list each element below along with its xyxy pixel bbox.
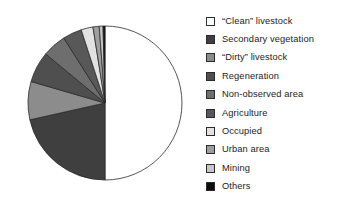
legend-item[interactable]: Regeneration <box>206 67 342 85</box>
legend-item-label: Others <box>222 181 251 192</box>
legend-item[interactable]: Agriculture <box>206 104 342 122</box>
legend-item-label: “Dirty” livestock <box>222 52 287 63</box>
legend-item-label: Secondary vegetation <box>222 34 314 45</box>
pie-svg <box>0 0 195 202</box>
legend-item[interactable]: Secondary vegetation <box>206 30 342 48</box>
legend-item-label: Non-observed area <box>222 89 303 100</box>
pie-slice[interactable] <box>105 26 182 180</box>
legend-item-label: Mining <box>222 163 250 174</box>
legend-swatch-icon <box>206 109 215 118</box>
legend-swatch-icon <box>206 127 215 136</box>
legend-item[interactable]: “Dirty” livestock <box>206 49 342 67</box>
legend-item-label: Occupied <box>222 126 262 137</box>
legend-swatch-icon <box>206 90 215 99</box>
legend-item[interactable]: “Clean” livestock <box>206 12 342 30</box>
legend-item-label: Regeneration <box>222 71 279 82</box>
legend-item[interactable]: Non-observed area <box>206 86 342 104</box>
legend-item[interactable]: Urban area <box>206 141 342 159</box>
legend-swatch-icon <box>206 182 215 191</box>
legend-swatch-icon <box>206 53 215 62</box>
legend-item-label: Urban area <box>222 144 270 155</box>
legend-item[interactable]: Occupied <box>206 122 342 140</box>
pie-slice-group <box>28 26 182 180</box>
chart-legend: “Clean” livestockSecondary vegetation“Di… <box>206 12 342 196</box>
legend-item[interactable]: Mining <box>206 159 342 177</box>
legend-swatch-icon <box>206 145 215 154</box>
legend-item-label: Agriculture <box>222 108 268 119</box>
legend-item[interactable]: Others <box>206 178 342 196</box>
legend-swatch-icon <box>206 17 215 26</box>
legend-swatch-icon <box>206 35 215 44</box>
pie-plot-area <box>0 0 195 202</box>
legend-swatch-icon <box>206 164 215 173</box>
pie-chart-figure: “Clean” livestockSecondary vegetation“Di… <box>0 0 342 202</box>
legend-swatch-icon <box>206 72 215 81</box>
legend-item-label: “Clean” livestock <box>222 16 292 27</box>
